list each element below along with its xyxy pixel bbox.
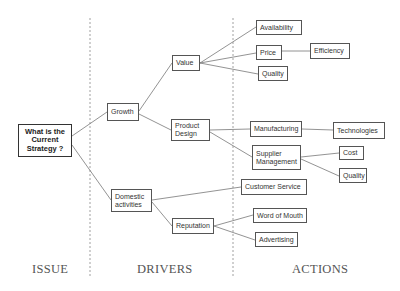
issue-tree-diagram: What is the Current Strategy ? Growth Do… xyxy=(0,0,400,291)
driver-reputation-box: Reputation xyxy=(172,218,214,234)
driver-value-box: Value xyxy=(172,55,200,71)
action-quality-box: Quality xyxy=(258,66,288,81)
driver-product-design-box: Product Design xyxy=(171,119,210,141)
action-word-of-mouth-box: Word of Mouth xyxy=(253,208,307,223)
driver-domestic-activities-box: Domestic activities xyxy=(111,189,152,212)
action-technologies-box: Technologies xyxy=(333,122,385,139)
action-quality-supplier-box: Quality xyxy=(339,168,367,183)
action-availability-box: Availability xyxy=(256,20,302,35)
section-label-drivers: DRIVERS xyxy=(137,262,193,277)
root-issue-box: What is the Current Strategy ? xyxy=(18,124,72,157)
action-advertising-box: Advertising xyxy=(255,232,298,247)
action-price-box: Price xyxy=(256,45,282,60)
section-label-actions: ACTIONS xyxy=(292,262,348,277)
section-label-issue: ISSUE xyxy=(32,262,68,277)
action-supplier-management-box: Supplier Management xyxy=(252,145,301,170)
action-customer-service-box: Customer Service xyxy=(241,179,307,195)
action-efficiency-box: Efficiency xyxy=(310,43,350,59)
driver-growth-box: Growth xyxy=(107,103,139,121)
action-manufacturing-box: Manufacturing xyxy=(250,121,302,137)
action-cost-box: Cost xyxy=(339,146,364,160)
